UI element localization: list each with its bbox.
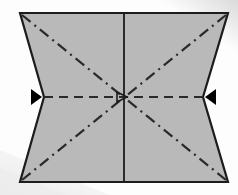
diagram-canvas (0, 0, 238, 195)
origami-fold-diagram (0, 0, 238, 195)
